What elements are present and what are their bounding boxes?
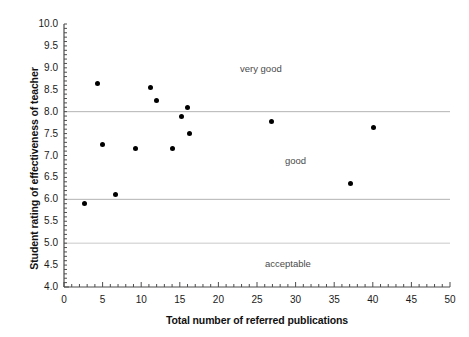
data-point [269,119,274,124]
data-point [187,131,192,136]
x-tick-label: 50 [430,295,469,305]
data-point [185,105,190,110]
plot-area: very goodgoodacceptable [64,24,450,287]
data-point [179,114,184,119]
x-tick-label: 15 [160,295,200,305]
data-point [82,201,87,206]
data-point [348,181,353,186]
category-annotation: very good [240,62,282,73]
x-tick-label: 5 [83,295,123,305]
data-point [371,125,376,130]
x-tick-label: 20 [198,295,238,305]
data-point [148,85,153,90]
data-point [154,98,159,103]
data-point [133,146,138,151]
x-tick-label: 35 [314,295,354,305]
x-tick-label: 40 [353,295,393,305]
data-point [100,142,105,147]
data-point [95,81,100,86]
scatter-chart-figure: Student rating of effectiveness of teach… [0,0,469,337]
data-point [113,192,118,197]
x-tick-label: 10 [121,295,161,305]
x-tick-label: 0 [44,295,84,305]
x-tick-label: 45 [391,295,431,305]
category-annotation: acceptable [265,257,311,268]
x-tick-label: 30 [276,295,316,305]
x-tick-label: 25 [237,295,277,305]
category-annotation: good [285,154,306,165]
data-point [170,146,175,151]
